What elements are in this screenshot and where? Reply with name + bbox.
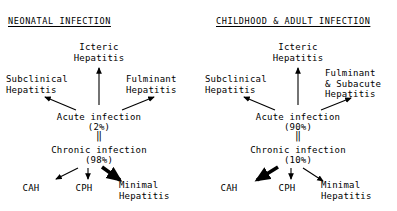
node-fulminant-hepatitis: Fulminant Hepatitis — [126, 74, 177, 95]
node-chronic-infection: Chronic infection — [51, 145, 147, 156]
node-acute-infection: Acute infection — [256, 112, 340, 123]
node-chronic-infection: Chronic infection — [250, 145, 346, 156]
node-chronic-infection-percent: (98%) — [85, 155, 113, 166]
node-subclinical-hepatitis: Subclinical Hepatitis — [205, 74, 267, 95]
arrow-acute-to-fulminant — [122, 97, 154, 110]
arrow-chronic-to-cah — [56, 168, 78, 179]
arrow-acute-to-fulminant-subacute — [321, 98, 351, 110]
node-minimal-hepatitis: Minimal Hepatitis — [119, 180, 170, 201]
hepatitis-outcome-diagram: NEONATAL INFECTION Icteric Hepatitis Sub… — [0, 0, 397, 211]
arrow-chronic-to-minimal — [303, 168, 323, 181]
connector-equals-neonatal: ‖ — [96, 131, 102, 141]
arrow-acute-to-subclinical — [45, 97, 76, 110]
connector-equals-childhood-adult: ‖ — [295, 131, 301, 141]
panel-neonatal: NEONATAL INFECTION Icteric Hepatitis Sub… — [0, 0, 198, 211]
node-cph: CPH — [279, 183, 296, 194]
node-fulminant-subacute-hepatitis: Fulminant & Subacute Hepatitis — [325, 68, 381, 100]
panel-childhood-adult: CHILDHOOD & ADULT INFECTION Icteric Hepa… — [199, 0, 397, 211]
node-icteric-hepatitis: Icteric Hepatitis — [273, 42, 324, 63]
node-cph: CPH — [76, 183, 93, 194]
node-icteric-hepatitis: Icteric Hepatitis — [74, 42, 125, 63]
node-subclinical-hepatitis: Subclinical Hepatitis — [6, 74, 68, 95]
arrow-acute-to-subclinical — [244, 97, 275, 110]
node-chronic-infection-percent: (10%) — [284, 155, 312, 166]
node-minimal-hepatitis: Minimal Hepatitis — [321, 180, 372, 201]
arrow-chronic-to-cah-bold — [257, 167, 278, 180]
node-cah: CAH — [23, 183, 40, 194]
node-acute-infection: Acute infection — [57, 112, 141, 123]
arrow-chronic-to-minimal-bold — [102, 167, 120, 180]
panel-title-childhood-adult: CHILDHOOD & ADULT INFECTION — [216, 16, 370, 26]
panel-title-neonatal: NEONATAL INFECTION — [8, 16, 111, 26]
node-cah: CAH — [221, 183, 238, 194]
